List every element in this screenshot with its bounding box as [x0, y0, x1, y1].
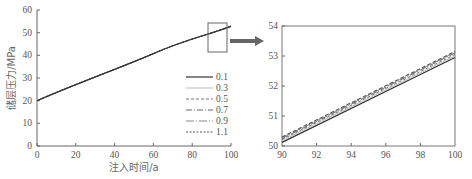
left-x-axis-label: 注入时间/a: [109, 161, 159, 173]
right-xtick-label: 90: [277, 150, 287, 160]
left-ytick-label: 10: [23, 118, 33, 128]
legend-label: 0.5: [216, 94, 228, 104]
left-xtick-label: 80: [187, 150, 197, 160]
left-ytick-label: 20: [23, 96, 33, 106]
series-0.5-line: [282, 55, 455, 140]
left-ytick-label: 60: [23, 5, 33, 15]
left-ytick-label: 30: [23, 73, 33, 83]
right-xtick-label: 96: [381, 150, 391, 160]
legend-label: 0.7: [216, 105, 228, 115]
right-series: [282, 52, 455, 143]
left-xtick-label: 0: [35, 150, 40, 160]
zoom-region-box: [208, 23, 227, 52]
series-0.7-line: [282, 53, 455, 139]
left-xtick-label: 20: [71, 150, 81, 160]
right-ytick-label: 53: [269, 51, 279, 61]
left-ytick-label: 0: [27, 141, 32, 151]
right-xtick-label: 92: [312, 150, 322, 160]
series-1.1-line: [282, 52, 455, 138]
right-chart: 50 51 52 53 54 90 92 94 96 98 100: [269, 21, 463, 160]
chart-canvas: 0 10 20 30 40 50 60 0 20 40 60 80 100 注入…: [0, 0, 472, 179]
left-xtick-label: 100: [224, 150, 239, 160]
zoom-arrow-icon: [230, 36, 264, 46]
series-0.1-line: [37, 26, 231, 100]
series-0.5-line: [37, 26, 231, 101]
legend-label: 0.3: [216, 83, 228, 93]
right-xtick-label: 94: [346, 150, 356, 160]
left-chart: 0 10 20 30 40 50 60 0 20 40 60 80 100 注入…: [5, 5, 238, 173]
left-xtick-label: 40: [110, 150, 120, 160]
left-ytick-label: 50: [23, 28, 33, 38]
left-y-axis-label: 储层压力/MPa: [5, 46, 17, 110]
right-xtick-label: 98: [416, 150, 426, 160]
right-ytick-label: 54: [269, 21, 279, 31]
right-ytick-label: 52: [269, 81, 279, 91]
legend-label: 1.1: [216, 127, 228, 137]
series-0.9-line: [282, 52, 455, 137]
series-0.7-line: [37, 26, 231, 101]
right-y-ticks: 50 51 52 53 54: [269, 21, 286, 151]
left-legend: 0.1 0.3 0.5 0.7 0.9 1.1: [186, 72, 228, 137]
left-xtick-label: 60: [149, 150, 159, 160]
series-0.1-line: [282, 58, 455, 143]
legend-label: 0.1: [216, 72, 228, 82]
series-1.1-line: [37, 26, 231, 101]
left-ytick-label: 40: [23, 50, 33, 60]
series-0.9-line: [37, 26, 231, 101]
series-0.3-line: [282, 56, 455, 141]
right-ytick-label: 51: [269, 111, 279, 121]
left-series: [37, 26, 231, 101]
series-0.3-line: [37, 26, 231, 100]
legend-label: 0.9: [216, 116, 228, 126]
right-xtick-label: 100: [448, 150, 463, 160]
